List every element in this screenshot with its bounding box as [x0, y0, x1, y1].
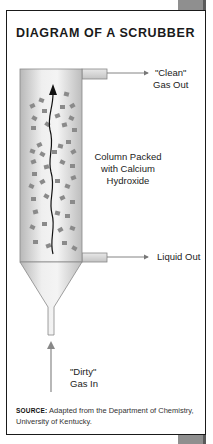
column-label-line1: Column Packed [93, 151, 163, 163]
liquid-outlet-pipe [82, 253, 148, 262]
clean-gas-outlet-pipe [82, 69, 148, 79]
source-prefix: SOURCE: [16, 407, 47, 414]
column-cone [20, 262, 82, 335]
column-packed-label: Column Packed with Calcium Hydroxide [93, 151, 163, 187]
corner-tab-bottom [178, 435, 206, 444]
column-label-line2: with Calcium [93, 163, 163, 175]
dirty-gas-in-label-line1: "Dirty" [70, 366, 98, 378]
dirty-gas-in-label-line2: Gas In [70, 378, 98, 390]
column-label-line3: Hydroxide [93, 175, 163, 187]
clean-gas-out-label-line1: "Clean" [153, 67, 188, 79]
dirty-gas-in-label: "Dirty" Gas In [70, 366, 98, 390]
dirty-gas-in-arrow [47, 341, 55, 392]
corner-tab-bottom-edge [203, 435, 206, 444]
source-note: SOURCE: Adapted from the Department of C… [16, 405, 201, 427]
clean-gas-out-label-line2: Gas Out [153, 79, 188, 91]
clean-gas-out-label: "Clean" Gas Out [153, 67, 188, 91]
liquid-out-label: Liquid Out [157, 251, 200, 263]
